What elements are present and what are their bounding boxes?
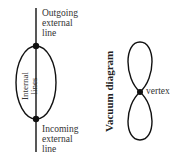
incoming-label: Incoming external line <box>42 124 78 154</box>
vertex-dot <box>137 89 143 95</box>
incoming-label-line2: external <box>42 134 78 144</box>
incoming-label-line3: line <box>42 144 78 154</box>
bottom-vertex-dot <box>33 116 39 122</box>
internal-label-line2: lines <box>30 72 39 100</box>
outgoing-label-line1: Outgoing <box>42 8 78 18</box>
vertex-label: vertex <box>146 86 170 96</box>
outgoing-label: Outgoing external line <box>42 8 78 38</box>
vacuum-diagram-title: Vacuum diagram <box>103 51 115 132</box>
top-vertex-dot <box>33 43 39 49</box>
outgoing-label-line2: external <box>42 18 78 28</box>
outgoing-label-line3: line <box>42 28 78 38</box>
internal-lines-label: Internal lines <box>21 72 39 100</box>
incoming-label-line1: Incoming <box>42 124 78 134</box>
